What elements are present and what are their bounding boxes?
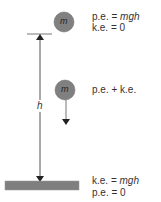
height-label: h — [37, 100, 43, 111]
bottom-energy-pe: p.e. = 0 — [92, 187, 126, 198]
diagram-graphics — [0, 0, 161, 202]
mass-label-falling: m — [61, 84, 69, 95]
top-energy-ke: k.e. = 0 — [92, 22, 125, 33]
mass-label-top: m — [60, 16, 68, 27]
energy-diagram: m m h p.e. = mgh k.e. = 0 p.e. + k.e. k.… — [0, 0, 161, 202]
top-energy-pe: p.e. = mgh — [92, 11, 140, 22]
bottom-energy-ke: k.e. = mgh — [92, 175, 139, 186]
middle-energy: p.e. + k.e. — [92, 84, 136, 95]
ground-bar — [5, 181, 79, 190]
